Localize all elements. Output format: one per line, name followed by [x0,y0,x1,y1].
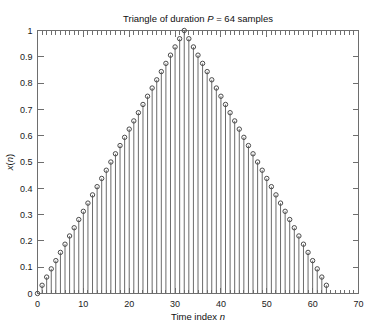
x-tick-label: 70 [353,299,363,309]
x-tick-label: 60 [308,299,318,309]
x-axis-ticks: 010203040506070 [35,31,364,309]
stem-plot: Triangle of duration P = 64 samples 0102… [0,0,382,327]
x-tick-label: 0 [35,299,40,309]
y-tick-label: 0.4 [20,184,33,194]
y-tick-label: 0.6 [20,131,33,141]
y-tick-label: 0.2 [20,236,33,246]
x-tick-label: 10 [78,299,88,309]
y-tick-label: 1 [27,26,32,36]
y-tick-label: 0 [27,289,32,299]
y-axis-label: x(n) [4,154,15,171]
y-tick-label: 0.5 [20,157,33,167]
y-tick-label: 0.9 [20,52,33,62]
x-tick-label: 30 [170,299,180,309]
y-tick-label: 0.7 [20,105,33,115]
y-tick-label: 0.3 [20,210,33,220]
x-tick-label: 50 [262,299,272,309]
y-tick-label: 0.1 [20,262,33,272]
x-axis-label: Time index n [171,311,225,322]
y-axis-label-text: x(n) [4,154,15,171]
chart-title: Triangle of duration P = 64 samples [123,13,273,24]
figure-canvas: Triangle of duration P = 64 samples 0102… [0,0,382,327]
x-axis-label-text: Time index n [171,311,225,322]
x-tick-label: 40 [216,299,226,309]
x-tick-label: 20 [124,299,134,309]
stem-series [35,28,328,295]
chart-title-text: Triangle of duration P = 64 samples [123,13,273,24]
y-tick-label: 0.8 [20,78,33,88]
